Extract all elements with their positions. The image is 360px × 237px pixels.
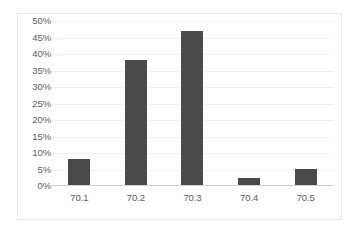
y-axis-tick-label: 15% [18, 132, 51, 142]
y-axis-tick-label: 0% [18, 181, 51, 191]
bar-slot [51, 21, 108, 185]
bar-70-4[interactable] [238, 178, 260, 185]
bar-70-3[interactable] [181, 31, 203, 185]
y-axis-tick-label: 25% [18, 99, 51, 109]
y-axis-tick-label: 50% [18, 16, 51, 26]
bar-chart-figure: 50% 45% 40% 35% 30% 25% 20% 15% 10% 5% 0… [17, 13, 342, 220]
x-axis-tick-label: 70.2 [108, 190, 165, 206]
y-axis-tick-labels: 50% 45% 40% 35% 30% 25% 20% 15% 10% 5% 0… [18, 21, 51, 186]
bars-layer [51, 21, 334, 185]
y-axis-tick-label: 40% [18, 49, 51, 59]
x-axis-tick-label: 70.4 [221, 190, 278, 206]
y-axis-tick-label: 45% [18, 33, 51, 43]
x-axis-tick-label: 70.3 [164, 190, 221, 206]
bar-slot [221, 21, 278, 185]
x-axis-tick-label: 70.5 [277, 190, 334, 206]
bar-slot [277, 21, 334, 185]
bar-70-5[interactable] [295, 169, 317, 185]
y-axis-tick-label: 20% [18, 115, 51, 125]
y-axis-tick-label: 30% [18, 82, 51, 92]
plot-area [51, 21, 334, 186]
x-axis-tick-label: 70.1 [51, 190, 108, 206]
bar-slot [164, 21, 221, 185]
y-axis-tick-label: 5% [18, 165, 51, 175]
y-axis-tick-label: 10% [18, 148, 51, 158]
y-axis-tick-label: 35% [18, 66, 51, 76]
chart-plot-wrapper: 50% 45% 40% 35% 30% 25% 20% 15% 10% 5% 0… [18, 14, 341, 219]
x-axis-tick-labels: 70.1 70.2 70.3 70.4 70.5 [51, 190, 334, 206]
bar-slot [108, 21, 165, 185]
bar-70-2[interactable] [125, 60, 147, 185]
x-axis-line [51, 185, 334, 186]
bar-70-1[interactable] [68, 159, 90, 185]
